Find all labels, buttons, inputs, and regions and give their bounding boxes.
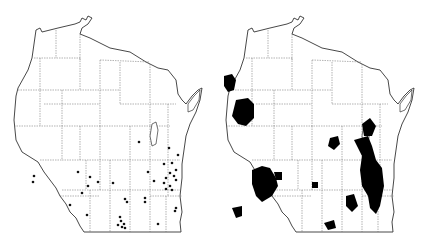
maps-svg [0, 0, 422, 240]
figure [0, 0, 422, 240]
map-right [224, 16, 414, 232]
map-left [14, 16, 202, 232]
